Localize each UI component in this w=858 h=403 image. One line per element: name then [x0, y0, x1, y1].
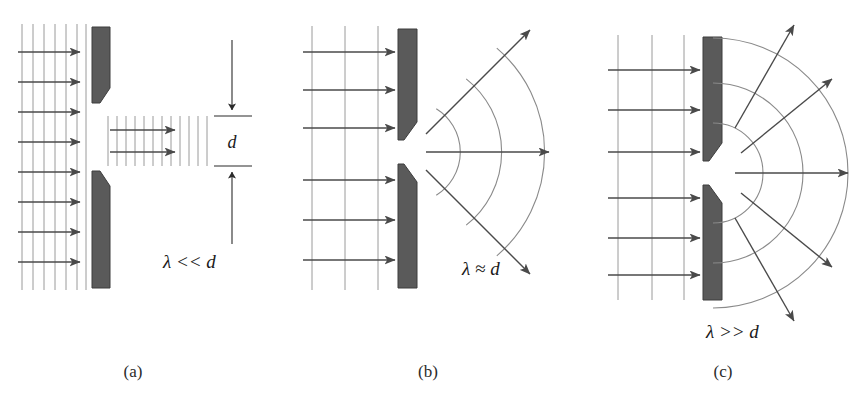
- panel-c-caption: (c): [693, 362, 753, 382]
- diffraction-diagram: d λ << d: [0, 0, 858, 403]
- panel-b-caption: (b): [398, 362, 458, 382]
- panel-c-condition-label: λ >> d: [705, 321, 759, 342]
- panel-a-barrier-lower: [92, 171, 110, 288]
- panel-a-transmitted-wavefronts: [108, 116, 207, 166]
- panel-a-transmitted-arrows: [110, 130, 175, 152]
- panel-c: λ >> d: [608, 25, 848, 342]
- panel-b-incident-wavefronts: [312, 26, 378, 290]
- panel-c-diffraction-arrows: [735, 25, 848, 321]
- diffraction-figure: d λ << d: [0, 0, 858, 403]
- panel-b-barrier-lower: [398, 164, 417, 288]
- panel-b-barrier-upper: [398, 29, 417, 140]
- panel-b-condition-label: λ ≈ d: [461, 258, 500, 279]
- panel-a-barrier-upper: [92, 27, 110, 103]
- panel-a-condition-label: λ << d: [162, 251, 216, 272]
- panel-a-incident-wavefronts: [22, 24, 86, 290]
- panel-b-diffraction-arrows: [426, 30, 549, 274]
- panel-c-incident-wavefronts: [618, 35, 684, 300]
- panel-b-incident-arrows: [303, 52, 395, 260]
- panel-a-incident-arrows: [18, 52, 80, 262]
- panel-a: d λ << d: [18, 24, 252, 290]
- panel-a-dimension-label: d: [228, 132, 238, 152]
- panel-b: λ ≈ d: [303, 26, 549, 290]
- panel-c-incident-arrows: [608, 70, 700, 275]
- panel-c-barrier-lower: [703, 185, 722, 300]
- panel-a-caption: (a): [103, 362, 163, 382]
- panel-c-barrier-upper: [703, 37, 722, 161]
